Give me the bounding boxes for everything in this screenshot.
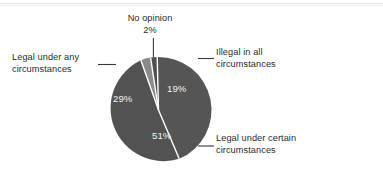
callout-illegal-all-line1: Illegal in all	[216, 47, 263, 57]
slice-value-legal-under-certain-circumstances: 51%	[152, 130, 172, 141]
callout-illegal-in-all-circumstances: Illegal in all circumstances	[216, 47, 316, 70]
pie-chart-figure: No opinion 2% Legal under any circumstan…	[0, 0, 383, 186]
callout-illegal-all-line2: circumstances	[216, 59, 316, 71]
callout-no-opinion-line2: 2%	[112, 25, 188, 37]
pie-chart-graphic	[0, 0, 383, 186]
callout-no-opinion: No opinion 2%	[112, 13, 188, 36]
callout-legal-under-certain-circumstances: Legal under certain circumstances	[216, 133, 328, 156]
callout-legal-certain-line1: Legal under certain	[216, 133, 296, 143]
slice-value-legal-under-any-circumstances: 29%	[113, 93, 133, 104]
callout-legal-any-line2: circumstances	[12, 64, 98, 76]
callout-legal-under-any-circumstances: Legal under any circumstances	[12, 52, 98, 75]
slice-value-illegal-in-all-circumstances: 19%	[167, 83, 187, 94]
callout-legal-any-line1: Legal under any	[12, 52, 79, 62]
callout-no-opinion-line1: No opinion	[128, 13, 173, 23]
callout-legal-certain-line2: circumstances	[216, 145, 328, 157]
